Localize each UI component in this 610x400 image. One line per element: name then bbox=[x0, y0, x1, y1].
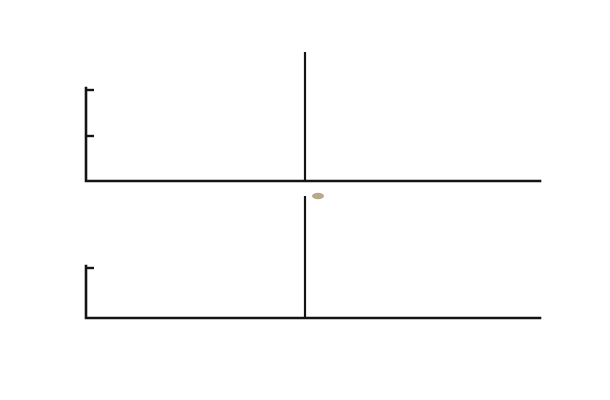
production-axis-lines bbox=[86, 266, 540, 318]
histogram-figure bbox=[0, 0, 610, 400]
scan-artifact-speck bbox=[312, 193, 324, 199]
consumption-axis-lines bbox=[86, 88, 540, 181]
production-panel bbox=[86, 266, 540, 318]
consumption-panel bbox=[86, 88, 540, 181]
figure-container bbox=[0, 0, 610, 400]
